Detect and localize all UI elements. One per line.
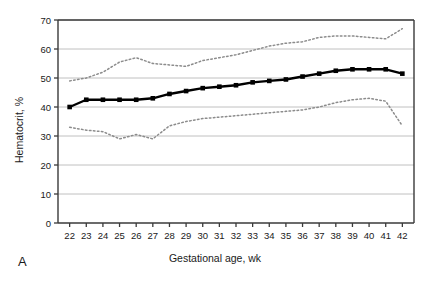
figure-panel-a: 010203040506070 222324252627282930313233… (0, 0, 430, 285)
x-tick-label-23: 23 (81, 230, 92, 241)
x-tick-label-29: 29 (181, 230, 192, 241)
y-tick-label-10: 10 (40, 189, 51, 200)
x-axis-title: Gestational age, wk (169, 252, 262, 264)
data-point-marker (151, 96, 156, 101)
data-point-marker (117, 97, 122, 102)
data-point-marker (383, 67, 388, 72)
x-tick-label-27: 27 (148, 230, 159, 241)
x-tick-label-37: 37 (314, 230, 325, 241)
x-tick-label-41: 41 (380, 230, 391, 241)
data-point-marker (284, 77, 289, 82)
data-point-marker (84, 97, 89, 102)
data-point-marker (267, 79, 272, 84)
x-tick-label-30: 30 (197, 230, 208, 241)
data-point-marker (101, 97, 106, 102)
data-point-marker (234, 83, 239, 88)
data-point-marker (350, 67, 355, 72)
x-tick-label-34: 34 (264, 230, 275, 241)
data-point-marker (167, 92, 172, 97)
data-point-marker (250, 80, 255, 85)
x-tick-label-32: 32 (231, 230, 242, 241)
y-tick-label-50: 50 (40, 73, 51, 84)
x-tick-label-40: 40 (364, 230, 375, 241)
x-tick-label-22: 22 (64, 230, 75, 241)
x-tick-label-36: 36 (297, 230, 308, 241)
data-point-marker (200, 86, 205, 91)
data-point-marker (300, 74, 305, 79)
data-point-marker (134, 97, 139, 102)
hematocrit-vs-gestational-age-chart: 010203040506070 222324252627282930313233… (0, 0, 430, 285)
x-tick-label-38: 38 (331, 230, 342, 241)
x-tick-label-42: 42 (397, 230, 408, 241)
y-axis-title: Hematocrit, % (13, 97, 25, 163)
y-tick-label-40: 40 (40, 102, 51, 113)
data-point-marker (400, 71, 405, 76)
y-tick-label-70: 70 (40, 15, 51, 26)
data-point-marker (67, 105, 72, 110)
y-tick-label-30: 30 (40, 131, 51, 142)
x-tick-label-33: 33 (247, 230, 258, 241)
chart-background (0, 0, 430, 285)
x-tick-label-35: 35 (281, 230, 292, 241)
data-point-marker (334, 68, 339, 73)
x-axis-ticks-group (70, 223, 403, 227)
x-tick-label-31: 31 (214, 230, 225, 241)
y-tick-label-20: 20 (40, 160, 51, 171)
y-tick-label-60: 60 (40, 44, 51, 55)
x-axis-tick-labels: 2223242526272829303132333435363738394041… (64, 230, 407, 241)
x-tick-label-39: 39 (347, 230, 358, 241)
data-point-marker (184, 89, 189, 94)
data-point-marker (367, 67, 372, 72)
panel-label: A (18, 254, 27, 269)
x-tick-label-28: 28 (164, 230, 175, 241)
data-point-marker (217, 84, 222, 89)
x-tick-label-25: 25 (114, 230, 125, 241)
y-tick-label-0: 0 (46, 218, 51, 229)
x-tick-label-24: 24 (98, 230, 109, 241)
data-point-marker (317, 71, 322, 76)
x-tick-label-26: 26 (131, 230, 142, 241)
